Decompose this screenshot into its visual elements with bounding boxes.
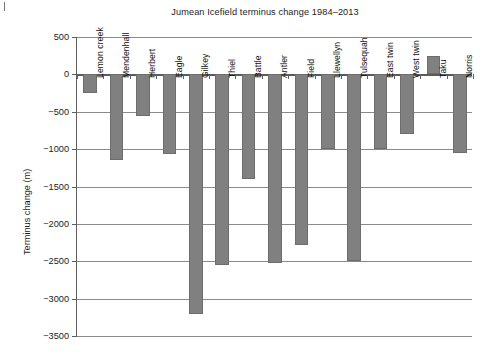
y-axis-tick-mark bbox=[72, 37, 77, 38]
plot-area: 5000−500−1000−1500−2000−2500−3000−3500Le… bbox=[76, 37, 472, 336]
y-axis-tick-mark bbox=[72, 299, 77, 300]
bar-llewellyn[interactable] bbox=[321, 74, 335, 149]
bar-herbert[interactable] bbox=[136, 74, 150, 116]
bar-east-twin[interactable] bbox=[374, 74, 388, 149]
gridline bbox=[77, 37, 472, 38]
bar-tulsequah[interactable] bbox=[347, 74, 361, 261]
bar-eagle[interactable] bbox=[163, 74, 177, 154]
category-label-thiel: Thiel bbox=[227, 59, 237, 78]
category-label-gilkey: Gilkey bbox=[200, 54, 210, 78]
x-axis-tick-mark bbox=[77, 74, 78, 79]
category-label-lemon-creek: Lemon creek bbox=[95, 28, 105, 79]
category-label-mendenhall: Mendenhall bbox=[121, 33, 131, 78]
bar-field[interactable] bbox=[295, 74, 309, 244]
y-axis-tick-mark bbox=[72, 149, 77, 150]
y-axis-tick-label: −2500 bbox=[43, 256, 69, 266]
category-label-herbert: Herbert bbox=[147, 49, 157, 78]
y-axis-tick-label: −500 bbox=[48, 107, 69, 117]
bar-battle[interactable] bbox=[242, 74, 256, 179]
category-label-taku: Taku bbox=[438, 60, 448, 79]
gridline bbox=[77, 299, 472, 300]
y-axis-tick-label: −3000 bbox=[43, 294, 69, 304]
category-label-tulsequah: Tulsequah bbox=[359, 38, 369, 79]
category-label-battle: Battle bbox=[253, 56, 263, 79]
bar-mendenhall[interactable] bbox=[110, 74, 124, 160]
category-label-east-twin: East twin bbox=[385, 43, 395, 79]
category-label-norris: Norris bbox=[464, 55, 474, 79]
y-axis-tick-label: −1500 bbox=[43, 182, 69, 192]
y-axis-tick-mark bbox=[72, 112, 77, 113]
scan-corner-mark bbox=[4, 2, 5, 11]
bar-antler[interactable] bbox=[268, 74, 282, 263]
category-label-field: Field bbox=[306, 59, 316, 78]
y-axis-tick-mark bbox=[72, 224, 77, 225]
y-axis-tick-label: 0 bbox=[64, 69, 69, 79]
bar-thiel[interactable] bbox=[215, 74, 229, 265]
category-label-eagle: Eagle bbox=[174, 56, 184, 78]
y-axis-tick-mark bbox=[72, 261, 77, 262]
y-axis-tick-label: −1000 bbox=[43, 144, 69, 154]
y-axis-tick-mark bbox=[72, 187, 77, 188]
bar-norris[interactable] bbox=[453, 74, 467, 152]
category-label-llewellyn: Llewellyn bbox=[332, 42, 342, 78]
category-label-west-twin: West twin bbox=[411, 40, 421, 78]
bar-gilkey[interactable] bbox=[189, 74, 203, 313]
chart-title: Jumean Icefield terminus change 1984–201… bbox=[60, 7, 470, 17]
y-axis-tick-label: −3500 bbox=[43, 331, 69, 341]
bar-west-twin[interactable] bbox=[400, 74, 414, 134]
chart-figure: Jumean Icefield terminus change 1984–201… bbox=[0, 0, 496, 356]
y-axis-tick-label: 500 bbox=[54, 32, 69, 42]
category-label-antler: Antler bbox=[279, 55, 289, 78]
gridline bbox=[77, 336, 472, 337]
y-axis-tick-label: −2000 bbox=[43, 219, 69, 229]
y-axis-tick-mark bbox=[72, 336, 77, 337]
